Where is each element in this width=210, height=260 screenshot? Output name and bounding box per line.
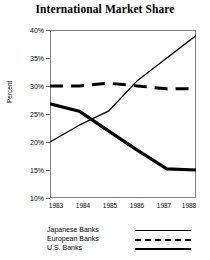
y-tick-label-15: 15% [18,167,44,174]
legend-swatch-thin-solid [135,230,191,231]
y-tick-label-35: 35% [18,55,44,62]
y-tick-mark-10 [46,198,50,199]
x-tick-label-1985: 1985 [95,202,125,209]
y-tick-label-40: 40% [18,27,44,34]
legend-swatch-dashed [135,239,191,241]
y-axis-label: Percent [6,92,13,103]
legend-label: Japanese Banks [47,226,99,233]
y-tick-label-25: 25% [18,111,44,118]
legend-label: European Banks [47,235,99,242]
series-line-us-banks [50,104,196,170]
x-tick-label-1986: 1986 [122,202,152,209]
legend-label: U.S. Banks [47,244,82,251]
series-line-european-banks [50,83,196,89]
x-tick-label-1984: 1984 [68,202,98,209]
chart-figure: International Market Share Percent 40% 3… [0,0,210,260]
y-tick-label-30: 30% [18,83,44,90]
x-tick-label-1988: 1988 [174,202,204,209]
series-lines [50,30,196,198]
x-tick-label-1983: 1983 [41,202,71,209]
y-tick-label-10: 10% [18,195,44,202]
series-line-japanese-banks [50,36,196,142]
page-title: International Market Share [0,3,210,15]
legend-swatch-thick-solid [135,248,191,250]
y-tick-label-20: 20% [18,139,44,146]
